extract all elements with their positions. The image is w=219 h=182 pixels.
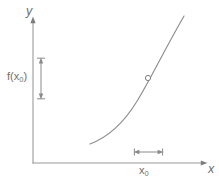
function-value-label-prefix: f(x [7,70,19,82]
x-axis-label: x [208,163,214,176]
x-axis-arrow-icon [201,160,208,165]
x-point-label-subscript: 0 [145,169,149,178]
function-value-label-suffix: ) [23,70,27,82]
curve-point-marker-icon [145,75,150,80]
function-graph-figure: y x f(x0) x0 [0,0,219,182]
vertical-measure-arrow [37,58,45,100]
y-axis-label: y [26,5,32,18]
graph-canvas [0,0,219,182]
y-axis [30,17,35,164]
curve-path [90,16,184,144]
x-axis [33,160,208,165]
x-point-label-base: x [139,164,145,176]
function-curve [90,16,184,144]
function-value-label-subscript: 0 [19,75,23,84]
horizontal-measure-arrow [134,149,164,156]
x-point-label: x0 [139,165,149,176]
function-value-label: f(x0) [7,71,27,82]
